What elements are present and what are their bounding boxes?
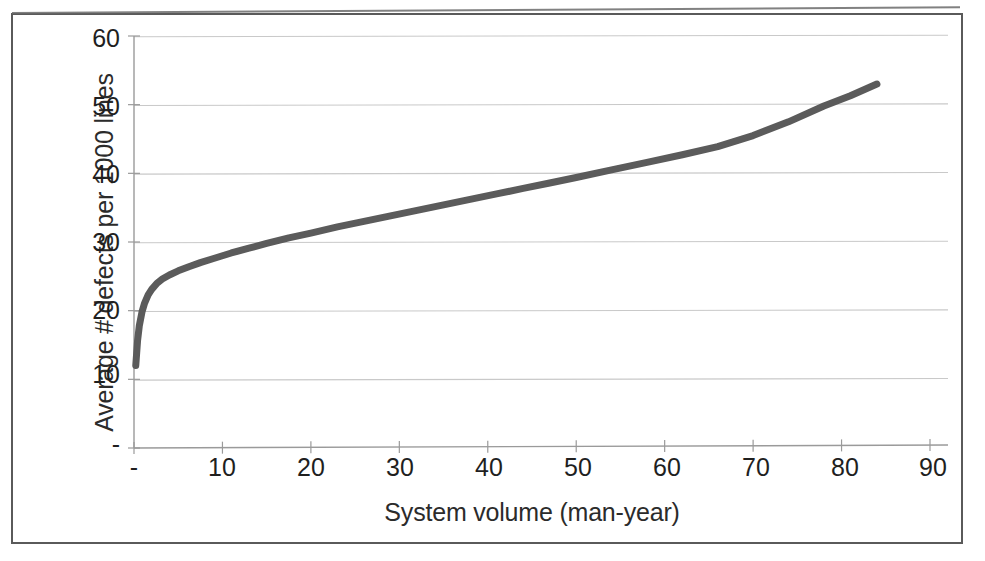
- chart-page: Average # defects per 1000 lines System …: [0, 0, 985, 561]
- gridline: [134, 35, 948, 37]
- gridline: [134, 379, 948, 381]
- x-axis-line: [134, 445, 948, 448]
- gridline: [134, 173, 948, 175]
- gridlines: [134, 35, 948, 380]
- data-series-line: [136, 84, 877, 366]
- chart-canvas: Average # defects per 1000 lines System …: [0, 0, 985, 561]
- plot-svg: [0, 0, 985, 561]
- gridline: [134, 310, 948, 312]
- gridline: [134, 241, 948, 243]
